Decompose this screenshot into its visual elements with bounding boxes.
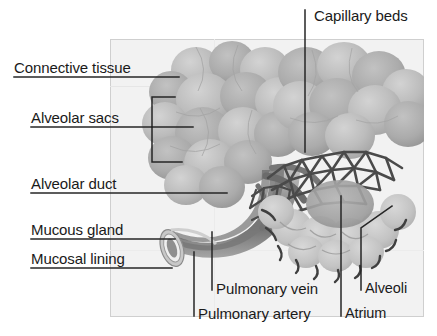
label-pulmonary-vein: Pulmonary vein <box>216 281 318 296</box>
label-alveolar-duct: Alveolar duct <box>31 176 116 191</box>
label-atrium: Atrium <box>345 306 386 321</box>
label-pulmonary-artery: Pulmonary artery <box>198 306 311 321</box>
label-alveolar-sacs: Alveolar sacs <box>31 110 119 125</box>
label-alveoli: Alveoli <box>365 281 407 296</box>
atrium-chamber <box>306 180 374 228</box>
label-mucous-gland: Mucous gland <box>31 222 123 237</box>
label-connective-tissue: Connective tissue <box>14 60 131 75</box>
diagram-canvas: Capillary beds Connective tissue Alveola… <box>0 0 437 336</box>
label-capillary-beds: Capillary beds <box>314 8 408 23</box>
label-mucosal-lining: Mucosal lining <box>31 251 125 266</box>
